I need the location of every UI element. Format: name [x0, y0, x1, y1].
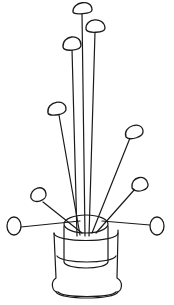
- flower-head: [31, 188, 46, 202]
- flower-head: [125, 125, 143, 138]
- flower-head: [73, 3, 92, 14]
- flower-head: [7, 217, 21, 235]
- potted-plant-drawing: [0, 0, 174, 305]
- flower-heads: [7, 3, 164, 235]
- flower-head: [132, 177, 148, 190]
- flower-head: [63, 37, 81, 50]
- stems: [21, 13, 150, 236]
- flower-head: [150, 217, 164, 235]
- flower-head: [48, 102, 66, 115]
- flower-head: [86, 20, 105, 32]
- flower-pot: [52, 215, 121, 298]
- illustration: [0, 0, 174, 305]
